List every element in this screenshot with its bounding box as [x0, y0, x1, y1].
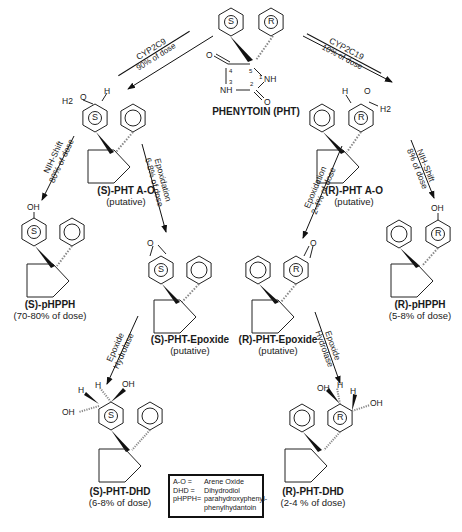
- atom-oh: OH: [62, 407, 75, 417]
- atom-o: O: [147, 238, 154, 248]
- atom-h: H: [337, 380, 343, 390]
- compound-name: (S)-pHPPH: [0, 299, 100, 311]
- ring-label-s: S: [92, 112, 98, 122]
- compound-note: (putative): [140, 346, 240, 357]
- s-phpph-structure: [22, 212, 84, 297]
- atom-number-3: 3: [229, 79, 232, 85]
- ring-label-r: R: [293, 264, 300, 274]
- atom-o: O: [364, 86, 371, 96]
- compound-s-epoxide: (S)-PHT-Epoxide (putative): [140, 334, 240, 356]
- compound-note: (70-80% of dose): [0, 311, 100, 322]
- atom-oh: OH: [431, 203, 444, 213]
- compound-name: (R)-pHPPH: [378, 299, 462, 311]
- atom-number-4: 4: [229, 68, 232, 74]
- r-epoxide-structure: [246, 246, 313, 333]
- ring-label-r: R: [435, 228, 442, 238]
- compound-note: (putative): [304, 197, 404, 208]
- s-pht-ao-structure: [83, 93, 145, 183]
- legend-abbr: [173, 504, 204, 513]
- abbreviation-legend: A-O =Arene Oxide DHD =Dihydrodiol pHPPH=…: [168, 474, 264, 518]
- compound-note: (2-4 % of dose): [270, 498, 356, 509]
- phenytoin-label: PHENYTOIN (PHT): [196, 106, 316, 118]
- atom-o: O: [80, 92, 87, 102]
- ring-label-s: S: [108, 410, 114, 420]
- compound-note: (putative): [76, 197, 176, 208]
- atom-number-5: 5: [249, 68, 252, 74]
- atom-o: O: [206, 50, 213, 60]
- r-phpph-structure: [387, 213, 450, 297]
- compound-name: (S)-PHT A-O: [76, 185, 176, 197]
- ring-label-s: S: [31, 226, 37, 236]
- atom-h: H: [95, 380, 101, 390]
- atom-oh: OH: [317, 383, 330, 393]
- atom-h: H: [350, 386, 356, 396]
- atom-h2: H2: [62, 96, 73, 106]
- atom-oh: OH: [27, 202, 40, 212]
- compound-s-phpph: (S)-pHPPH (70-80% of dose): [0, 299, 100, 321]
- compound-s-dhd: (S)-PHT-DHD (6-8% of dose): [80, 486, 160, 508]
- ring-label-s: S: [158, 264, 164, 274]
- atom-oh: OH: [122, 379, 135, 389]
- atom-oh: OH: [370, 398, 383, 408]
- compound-r-dhd: (R)-PHT-DHD (2-4 % of dose): [270, 486, 356, 508]
- compound-name: (S)-PHT-DHD: [80, 486, 160, 498]
- compound-r-phpph: (R)-pHPPH (5-8% of dose): [378, 299, 462, 321]
- atom-number-1: 1: [259, 74, 262, 80]
- legend-meaning: phenylhydantoin: [204, 504, 256, 513]
- atom-h: H: [104, 86, 110, 96]
- compound-name: (R)-PHT-Epoxide: [228, 334, 328, 346]
- phenytoin-name: PHENYTOIN (PHT): [196, 106, 316, 118]
- s-epoxide-structure: [149, 245, 211, 333]
- atom-nh3: NH: [220, 85, 232, 95]
- compound-name: (R)-PHT A-O: [304, 185, 404, 197]
- compound-s-pht-ao: (S)-PHT A-O (putative): [76, 185, 176, 207]
- r-dhd-structure: [285, 388, 370, 482]
- atom-h: H: [342, 86, 348, 96]
- ring-label-r: R: [268, 16, 275, 26]
- compound-note: (6-8% of dose): [80, 498, 160, 509]
- compound-r-pht-ao: (R)-PHT A-O (putative): [304, 185, 404, 207]
- legend-row: phenylhydantoin: [173, 504, 259, 513]
- atom-nh1: NH: [264, 74, 276, 84]
- ring-label-r: R: [358, 112, 365, 122]
- ring-label-r: R: [337, 412, 344, 422]
- compound-note: (5-8% of dose): [378, 311, 462, 322]
- ring-label-s: S: [228, 16, 234, 26]
- compound-r-epoxide: (R)-PHT-Epoxide (putative): [228, 334, 328, 356]
- compound-name: (R)-PHT-DHD: [270, 486, 356, 498]
- compound-note: (putative): [228, 346, 328, 357]
- atom-h: H: [78, 385, 84, 395]
- legend-abbr: pHPPH=: [173, 495, 204, 504]
- s-dhd-structure: [79, 388, 162, 482]
- atom-number-2: 2: [250, 81, 253, 87]
- compound-name: (S)-PHT-Epoxide: [140, 334, 240, 346]
- atom-h2: H2: [380, 104, 391, 114]
- atom-o: O: [310, 238, 317, 248]
